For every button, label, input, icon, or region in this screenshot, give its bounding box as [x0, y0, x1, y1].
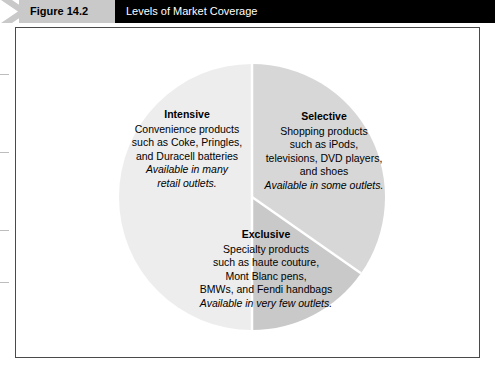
pie-label-selective-italic: Available in some outlets. — [256, 179, 392, 193]
pie-label-exclusive-line: such as haute couture, — [176, 256, 356, 270]
pie-label-intensive-line: Convenience products — [118, 123, 256, 137]
figure-header-bar: Figure 14.2 Levels of Market Coverage — [0, 0, 495, 23]
pie-label-exclusive-title: Exclusive — [176, 228, 356, 242]
pie-label-selective-line: Shopping products — [256, 125, 392, 139]
margin-tick — [0, 282, 9, 283]
figure-screenshot: Figure 14.2 Levels of Market Coverage In… — [0, 0, 495, 368]
pie-label-intensive-line: and Duracell batteries — [118, 150, 256, 164]
margin-tick — [0, 74, 9, 75]
pie-label-intensive-title: Intensive — [118, 108, 256, 122]
pie-label-intensive-line: such as Coke, Pringles, — [118, 136, 256, 150]
pie-label-exclusive-line: BMWs, and Fendi handbags — [176, 283, 356, 297]
pie-label-intensive-italic: Available in many — [118, 163, 256, 177]
pie-label-intensive-italic: retail outlets. — [118, 177, 256, 191]
pie-label-selective-line: televisions, DVD players, — [256, 152, 392, 166]
margin-tick — [0, 152, 9, 153]
figure-number-label: Figure 14.2 — [30, 0, 116, 23]
pie-label-selective-title: Selective — [256, 110, 392, 124]
pie-label-exclusive-italic: Available in very few outlets. — [176, 297, 356, 311]
figure-title: Levels of Market Coverage — [126, 0, 257, 23]
pie-label-selective-line: and shoes — [256, 165, 392, 179]
pie-label-selective-line: such as iPods, — [256, 138, 392, 152]
pie-label-exclusive-line: Mont Blanc pens, — [176, 270, 356, 284]
pie-label-exclusive-line: Specialty products — [176, 243, 356, 257]
margin-tick — [0, 230, 9, 231]
pie-label-intensive: Intensive Convenience products such as C… — [118, 108, 256, 190]
pie-label-exclusive: Exclusive Specialty products such as hau… — [176, 228, 356, 310]
pie-label-selective: Selective Shopping products such as iPod… — [256, 110, 392, 192]
